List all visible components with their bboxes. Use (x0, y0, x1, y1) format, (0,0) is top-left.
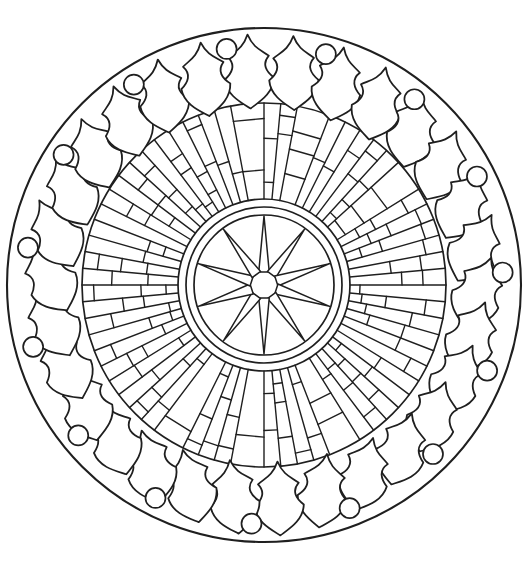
ornament-dot (467, 167, 487, 187)
star-medallion (186, 207, 342, 363)
ornament-dot (493, 262, 513, 282)
ornament-dot (23, 337, 43, 357)
ornament-dot (54, 145, 74, 165)
mandala-artwork (0, 0, 528, 563)
ivy-leaf (269, 36, 319, 111)
ornament-dot (340, 498, 360, 518)
ornament-dot (404, 89, 424, 109)
ornament-dot (68, 425, 88, 445)
coloring-page (0, 0, 528, 563)
star-spike (259, 298, 269, 354)
ornament-dot (477, 361, 497, 381)
ornament-dot (241, 514, 261, 534)
ornament-dot (423, 444, 443, 464)
mosaic-brick-ring (82, 103, 446, 467)
ornament-dot (18, 238, 38, 258)
ornament-dot (217, 39, 237, 59)
ornament-dot (146, 488, 166, 508)
ornament-dot (316, 44, 336, 64)
dot-ornament-ring (18, 39, 513, 534)
ornament-dot (124, 75, 144, 95)
star-spike (259, 216, 269, 272)
